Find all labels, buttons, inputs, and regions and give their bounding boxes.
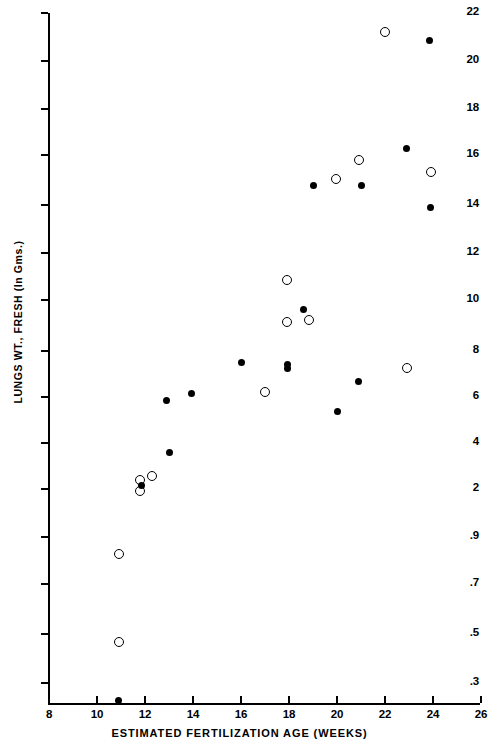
y-tick <box>41 396 48 398</box>
y-tick-label: 4 <box>446 435 479 447</box>
y-tick-label: 2 <box>446 481 479 493</box>
y-tick <box>41 108 48 110</box>
x-tick-label: 8 <box>34 708 64 720</box>
y-tick <box>41 154 48 156</box>
data-point-open <box>114 637 124 647</box>
data-point-filled <box>284 365 291 372</box>
data-point-open <box>402 363 412 373</box>
data-point-open <box>147 471 157 481</box>
data-point-open <box>282 275 292 285</box>
y-tick <box>41 204 48 206</box>
y-tick-label: 14 <box>446 197 479 209</box>
x-tick-label: 26 <box>466 708 492 720</box>
y-tick-label: 22 <box>446 5 479 17</box>
x-tick <box>48 696 50 703</box>
data-point-filled <box>163 397 170 404</box>
data-point-open <box>380 27 390 37</box>
y-tick <box>41 299 48 301</box>
data-point-open <box>282 317 292 327</box>
data-point-filled <box>238 359 245 366</box>
data-point-filled <box>334 408 341 415</box>
x-tick-label: 14 <box>178 708 208 720</box>
x-tick-label: 16 <box>226 708 256 720</box>
y-tick-label: .3 <box>446 675 479 687</box>
x-tick <box>96 696 98 703</box>
y-tick <box>41 442 48 444</box>
y-tick <box>41 60 48 62</box>
data-point-open <box>304 315 314 325</box>
y-tick-label: 12 <box>446 245 479 257</box>
x-tick-label: 12 <box>130 708 160 720</box>
x-tick-label: 20 <box>322 708 352 720</box>
data-point-filled <box>403 145 410 152</box>
y-tick <box>41 252 48 254</box>
y-tick-label: 18 <box>446 101 479 113</box>
y-tick-label: 16 <box>446 147 479 159</box>
x-tick <box>240 696 242 703</box>
y-tick-label: 20 <box>446 53 479 65</box>
data-point-filled <box>426 37 433 44</box>
x-tick <box>336 696 338 703</box>
x-axis-line <box>48 703 480 705</box>
y-tick <box>41 633 48 635</box>
x-tick-label: 10 <box>82 708 112 720</box>
y-tick-label: 10 <box>446 292 479 304</box>
data-point-open <box>114 549 124 559</box>
data-point-open <box>354 155 364 165</box>
y-tick <box>41 12 48 14</box>
y-tick-label: 8 <box>446 343 479 355</box>
y-tick-label: .9 <box>446 529 479 541</box>
data-point-filled <box>355 378 362 385</box>
y-axis-title: LUNGS WT., FRESH (In Gms.) <box>12 222 24 422</box>
y-tick-label: .7 <box>446 576 479 588</box>
data-point-filled <box>310 182 317 189</box>
x-tick-label: 18 <box>274 708 304 720</box>
y-tick <box>41 536 48 538</box>
data-point-filled <box>166 449 173 456</box>
data-point-open <box>426 167 436 177</box>
y-tick-label: 6 <box>446 389 479 401</box>
data-point-open <box>260 387 270 397</box>
data-point-filled <box>427 204 434 211</box>
y-tick <box>41 488 48 490</box>
y-axis-line <box>48 13 50 705</box>
data-point-filled <box>188 390 195 397</box>
data-point-filled <box>358 182 365 189</box>
y-tick <box>41 583 48 585</box>
y-tick <box>41 350 48 352</box>
y-tick-label: .5 <box>446 626 479 638</box>
x-tick <box>192 696 194 703</box>
x-axis-title: ESTIMATED FERTILIZATION AGE (WEEKS) <box>0 727 479 739</box>
data-point-open <box>331 174 341 184</box>
x-tick <box>432 696 434 703</box>
y-tick <box>41 682 48 684</box>
x-tick <box>384 696 386 703</box>
data-point-filled <box>300 306 307 313</box>
x-tick <box>288 696 290 703</box>
x-tick-label: 24 <box>418 708 448 720</box>
x-tick <box>480 696 482 703</box>
x-tick <box>144 696 146 703</box>
x-tick-label: 22 <box>370 708 400 720</box>
